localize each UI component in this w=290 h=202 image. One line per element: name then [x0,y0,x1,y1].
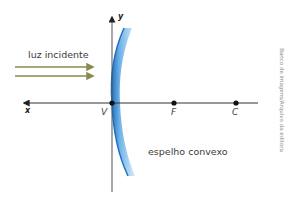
mirror-label: espelho convexo [148,146,228,157]
incident-light-label: luz incidente [28,49,89,60]
image-credit: Banco de imagens/Arquivo da editora [279,48,285,152]
x-axis-label: x [25,106,30,115]
vertex-label: V [101,107,107,117]
center-label: C [232,107,238,117]
center-point [233,100,238,105]
optics-diagram [0,0,290,202]
focus-point [171,100,176,105]
focus-label: F [171,107,176,117]
y-axis-label: y [118,12,123,21]
vertex-point [109,100,114,105]
convex-mirror [111,28,135,176]
